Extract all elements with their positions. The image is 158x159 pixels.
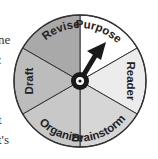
writing-process-wheel: Purpose Revise Brainstorm Organize Reade… <box>0 0 158 159</box>
label-draft: Draft <box>23 67 35 94</box>
center-hub-icon <box>71 72 89 90</box>
label-reader: Reader <box>125 62 137 102</box>
